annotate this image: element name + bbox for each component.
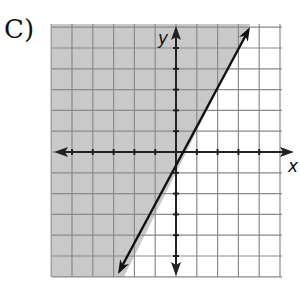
inequality-graph: xy <box>0 0 300 282</box>
y-axis-label: y <box>157 28 169 48</box>
x-axis-label: x <box>287 156 299 176</box>
